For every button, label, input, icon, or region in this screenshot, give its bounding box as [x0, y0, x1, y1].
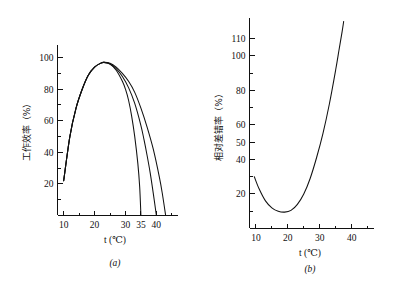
y-tick-label: 100 [231, 51, 246, 61]
x-tick-label: 40 [347, 233, 357, 243]
y-tick-label: 40 [44, 148, 54, 158]
y-tick-label: 50 [236, 138, 246, 148]
figure-root: 20406080100 1020303540 t (℃) (a) 工作效率（%）… [0, 0, 404, 285]
y-axis-title-a: 工作效率（%） [21, 99, 32, 162]
x-ticks-b [256, 224, 368, 229]
x-tick-label: 40 [152, 220, 162, 230]
y-tick-label: 80 [236, 86, 246, 96]
x-tick-label: 30 [121, 220, 131, 230]
y-tick-label: 100 [39, 53, 54, 63]
x-tick-label: 10 [59, 220, 69, 230]
x-axis-title-a: t (℃) [104, 235, 126, 246]
chart-b-axes [250, 18, 375, 229]
chart-a-curves [64, 62, 166, 215]
y-tick-label: 20 [236, 189, 246, 199]
data-curve-curve-2 [64, 62, 157, 215]
y-ticks-a [58, 58, 63, 200]
chart-a-svg: 20406080100 1020303540 t (℃) (a) 工作效率（%） [0, 0, 202, 285]
y-ticks-b [250, 39, 255, 212]
x-tick-label: 30 [315, 233, 325, 243]
y-tick-label: 40 [236, 155, 246, 165]
data-curve-curve-3 [64, 62, 166, 215]
data-curve-curve-1 [64, 62, 141, 215]
panel-caption-a: (a) [109, 258, 120, 269]
chart-b-curves [254, 21, 343, 212]
x-axis-title-b: t (℃) [299, 248, 321, 259]
chart-b-svg: 2040506080100110 10203040 t (℃) (b) 相对差错… [202, 0, 404, 285]
panel-caption-b: (b) [304, 264, 315, 275]
x-tick-label: 20 [283, 233, 293, 243]
x-tick-label: 10 [251, 233, 261, 243]
chart-panel-b: 2040506080100110 10203040 t (℃) (b) 相对差错… [202, 0, 404, 285]
chart-panel-a: 20406080100 1020303540 t (℃) (a) 工作效率（%） [0, 0, 202, 285]
y-tick-label: 60 [44, 116, 54, 126]
y-tick-label: 60 [236, 120, 246, 130]
y-tick-label: 110 [232, 34, 246, 44]
x-tick-label: 20 [90, 220, 100, 230]
y-tick-label: 20 [44, 179, 54, 189]
data-curve-curve-1 [254, 21, 343, 212]
x-tick-label: 35 [136, 220, 146, 230]
y-axis-title-b: 相对差错率（%） [213, 89, 224, 161]
y-tick-label: 80 [44, 85, 54, 95]
